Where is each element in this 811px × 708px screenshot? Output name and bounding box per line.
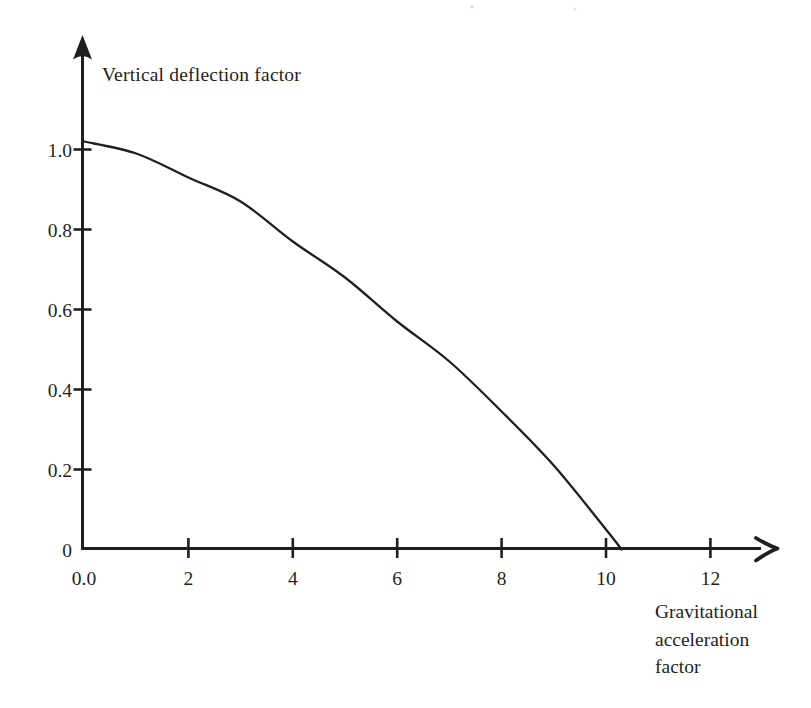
x-axis-title-line-3: factor — [655, 653, 758, 681]
y-tick-label: 0.6 — [48, 300, 73, 321]
y-tick-label: 0.4 — [48, 380, 73, 401]
deflection-curve — [84, 142, 622, 550]
x-tick-label: 6 — [392, 568, 402, 589]
x-tick-label: 8 — [497, 568, 507, 589]
chart-figure: 0.02468101200.20.40.60.81.0 Vertical def… — [0, 0, 811, 708]
x-tick-label: 2 — [184, 568, 194, 589]
scan-speckle — [574, 8, 577, 11]
y-tick-label: 1.0 — [48, 140, 72, 161]
y-axis-arrow-icon — [73, 35, 92, 60]
x-axis-title-line-1: Gravitational — [655, 598, 758, 626]
y-axis-title: Vertical deflection factor — [102, 64, 301, 86]
x-tick-label: 0.0 — [72, 568, 96, 589]
x-axis-title: Gravitational acceleration factor — [655, 598, 758, 681]
x-tick-label: 4 — [288, 568, 298, 589]
x-axis-title-line-2: acceleration — [655, 626, 758, 654]
y-tick-label: 0.8 — [48, 220, 72, 241]
scan-speckle — [470, 5, 474, 9]
y-tick-label: 0.2 — [48, 460, 72, 481]
y-tick-label: 0 — [62, 540, 72, 561]
x-tick-label: 10 — [596, 568, 616, 589]
x-tick-label: 12 — [701, 568, 721, 589]
